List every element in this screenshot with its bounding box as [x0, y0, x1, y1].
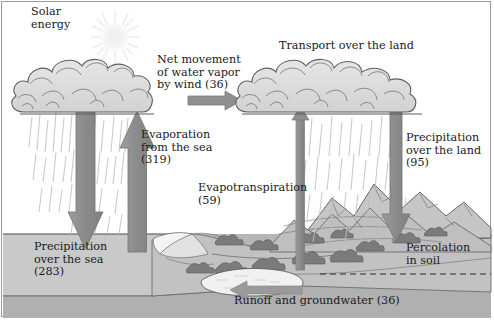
- label-percolation-soil: Percolation in soil: [406, 242, 470, 267]
- label-evapotranspiration: Evapotranspiration (59): [198, 182, 307, 207]
- label-solar-energy: Solar energy: [31, 6, 70, 31]
- cloud-icon: [12, 59, 154, 114]
- sun-icon: [90, 10, 140, 64]
- label-runoff-groundwater: Runoff and groundwater (36): [234, 295, 400, 308]
- diagram-frame: Solar energy Net movement of water vapor…: [1, 1, 491, 317]
- label-precipitation-sea: Precipitation over the sea (283): [34, 241, 107, 279]
- label-precipitation-land: Precipitation over the land (95): [406, 132, 481, 170]
- arrow-right-icon: [188, 91, 242, 110]
- water-cycle-diagram: Solar energy Net movement of water vapor…: [0, 0, 494, 334]
- label-transport-land: Transport over the land: [279, 40, 414, 53]
- label-wind-transport: Net movement of water vapor by wind (36): [157, 54, 241, 92]
- label-evaporation-sea: Evaporation from the sea (319): [141, 129, 212, 167]
- cloud-icon: [236, 59, 422, 114]
